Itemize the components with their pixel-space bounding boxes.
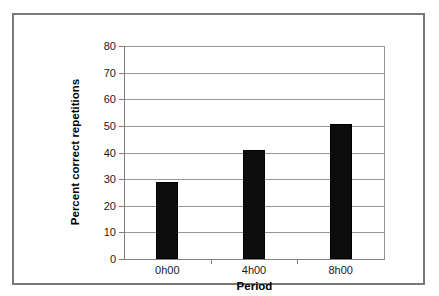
plot-right-border xyxy=(384,46,385,260)
y-tick-label: 50 xyxy=(104,120,116,131)
y-tick-label: 70 xyxy=(104,67,116,78)
x-axis-line xyxy=(124,259,385,260)
y-tick-label: 10 xyxy=(104,227,116,238)
x-tick-label: 4h00 xyxy=(242,265,266,276)
y-axis-line xyxy=(124,46,125,260)
x-tick-mark xyxy=(297,259,298,264)
grid-line xyxy=(124,73,384,74)
bar xyxy=(330,124,352,259)
y-tick-label: 80 xyxy=(104,41,116,52)
y-tick-label: 0 xyxy=(110,254,116,265)
y-tick-label: 40 xyxy=(104,147,116,158)
y-axis-title: Percent correct repetitions xyxy=(70,79,82,225)
y-tick-label: 30 xyxy=(104,174,116,185)
plot-area: 80706050403020100 xyxy=(124,46,384,259)
x-axis-title: Period xyxy=(124,281,385,293)
x-tick-mark xyxy=(211,259,212,264)
x-tick-label: 0h00 xyxy=(155,265,179,276)
grid-line xyxy=(124,99,384,100)
bar xyxy=(243,150,265,259)
y-tick-label: 60 xyxy=(104,94,116,105)
y-tick-label: 20 xyxy=(104,200,116,211)
figure-canvas: Percent correct repetitions 807060504030… xyxy=(0,0,439,296)
chart-frame-border: Percent correct repetitions 807060504030… xyxy=(12,13,425,285)
grid-line xyxy=(124,46,384,47)
bar xyxy=(156,182,178,259)
x-tick-label: 8h00 xyxy=(328,265,352,276)
